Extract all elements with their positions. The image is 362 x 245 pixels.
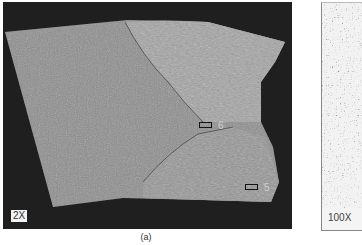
- micrograph-panel-100x: 100X: [321, 2, 362, 231]
- marker-label-5: 5: [264, 183, 270, 193]
- marker-box-6: [199, 122, 212, 128]
- magnification-label-100x: 100X: [328, 212, 351, 224]
- marker-box-5: [245, 184, 258, 190]
- marker-label-6: 6: [218, 121, 224, 131]
- figure-caption: (a): [0, 232, 292, 242]
- macrograph-panel-2x: 6 5 2X: [3, 2, 292, 229]
- micrograph-image: [322, 3, 362, 230]
- magnification-label-2x: 2X: [11, 210, 27, 222]
- specimen-macrograph-image: [3, 2, 292, 229]
